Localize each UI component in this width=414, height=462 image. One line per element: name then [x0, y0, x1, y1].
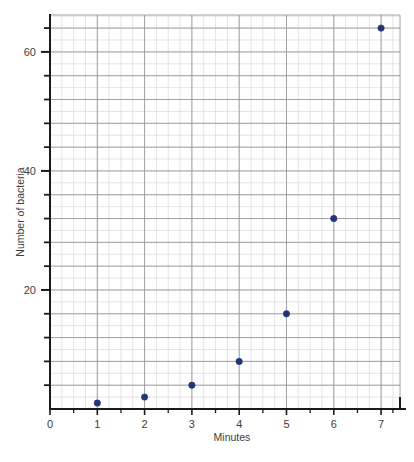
y-tick-label: 60 — [24, 46, 36, 58]
data-point — [283, 311, 289, 317]
x-axis-title: Minutes — [214, 431, 251, 443]
grid-major-lines — [50, 15, 400, 409]
data-point — [141, 394, 147, 400]
data-point — [94, 400, 100, 406]
x-tick-label: 2 — [142, 418, 148, 430]
x-tick-label: 0 — [47, 418, 53, 430]
x-tick-label: 3 — [189, 418, 195, 430]
x-axis-tick-labels: 01234567 — [47, 418, 384, 430]
x-tick-label: 1 — [94, 418, 100, 430]
x-tick-label: 5 — [283, 418, 289, 430]
y-axis-ticks — [41, 28, 50, 385]
scatter-chart: 01234567 204060 Minutes Number of bacter… — [0, 0, 414, 462]
x-tick-label: 7 — [378, 418, 384, 430]
grid-minor-lines — [50, 15, 400, 409]
data-point — [378, 25, 384, 31]
plot-svg: 01234567 204060 Minutes Number of bacter… — [0, 0, 414, 462]
y-tick-label: 20 — [24, 284, 36, 296]
data-point — [189, 382, 195, 388]
x-tick-label: 4 — [236, 418, 242, 430]
y-axis-title: Number of bacteria — [14, 167, 26, 256]
data-point — [236, 358, 242, 364]
x-tick-label: 6 — [331, 418, 337, 430]
data-point — [331, 215, 337, 221]
